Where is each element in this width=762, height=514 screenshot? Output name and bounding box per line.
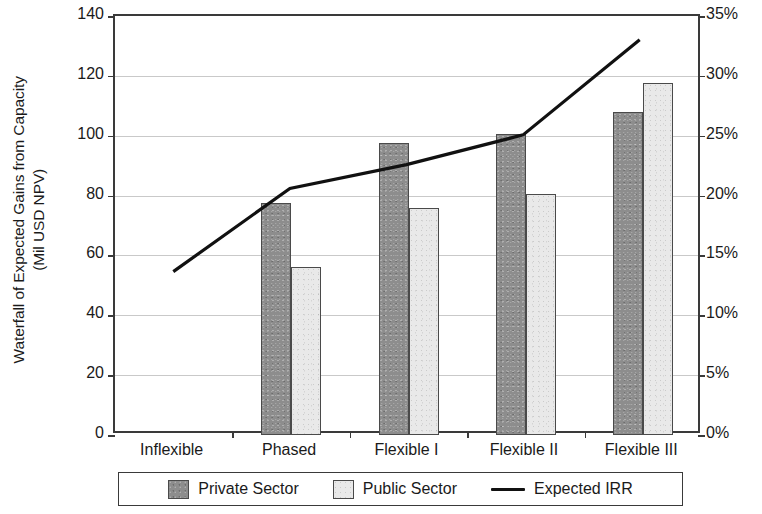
- x-axis-tick-label: Flexible II: [465, 437, 582, 463]
- secondary-y-axis-tickmark: [698, 375, 705, 377]
- x-axis-tick-labels: InflexiblePhasedFlexible IFlexible IIFle…: [113, 437, 700, 463]
- legend-label-public-sector: Public Sector: [363, 480, 457, 498]
- y-axis-tickmark: [108, 76, 115, 78]
- bar-private-sector: [261, 203, 291, 435]
- bar-public-sector: [643, 83, 673, 435]
- legend-item-private-sector: Private Sector: [168, 480, 298, 499]
- bar-public-sector: [526, 194, 556, 435]
- secondary-y-axis-tickmark: [698, 315, 705, 317]
- secondary-y-axis-tick-labels: 0%5%10%15%20%25%30%35%: [706, 14, 762, 433]
- bar-public-sector: [291, 267, 321, 435]
- legend-swatch-private-sector-icon: [168, 480, 189, 499]
- legend-item-expected-irr: Expected IRR: [491, 480, 633, 498]
- x-axis-tick-label: Flexible III: [583, 437, 700, 463]
- legend-line-expected-irr-icon: [491, 488, 525, 491]
- secondary-y-axis-tickmark: [698, 196, 705, 198]
- chart-container: Waterfall of Expected Gains from Capacit…: [0, 0, 762, 514]
- y-axis-tickmark: [108, 16, 115, 18]
- y-axis-tick-labels: 020406080100120140: [52, 14, 104, 433]
- x-axis-tick-label: Inflexible: [113, 437, 230, 463]
- chart-legend: Private Sector Public Sector Expected IR…: [118, 472, 683, 506]
- y-axis-tickmark: [108, 136, 115, 138]
- x-axis-tick-label: Phased: [230, 437, 347, 463]
- legend-swatch-public-sector-icon: [333, 480, 354, 499]
- legend-item-public-sector: Public Sector: [333, 480, 457, 499]
- legend-label-private-sector: Private Sector: [198, 480, 298, 498]
- y-axis-title-line-2: (Mil USD NPV): [29, 76, 49, 363]
- y-axis-tickmark: [108, 196, 115, 198]
- y-axis-tickmark: [108, 315, 115, 317]
- legend-label-expected-irr: Expected IRR: [534, 480, 633, 498]
- secondary-y-axis-tickmark: [698, 136, 705, 138]
- secondary-y-axis-tickmark: [698, 76, 705, 78]
- secondary-y-axis-tickmark: [698, 16, 705, 18]
- y-axis-title: Waterfall of Expected Gains from Capacit…: [0, 0, 58, 440]
- plot-area: [113, 14, 700, 433]
- y-axis-tickmark: [108, 375, 115, 377]
- bar-public-sector: [409, 208, 439, 435]
- secondary-y-axis-tickmark: [698, 255, 705, 257]
- bar-private-sector: [379, 143, 409, 435]
- x-axis-tick-label: Flexible I: [348, 437, 465, 463]
- y-axis-title-line-1: Waterfall of Expected Gains from Capacit…: [10, 76, 27, 363]
- bar-series-layer: [115, 16, 698, 431]
- y-axis-tickmark: [108, 255, 115, 257]
- bar-private-sector: [613, 112, 643, 435]
- bar-private-sector: [496, 134, 526, 435]
